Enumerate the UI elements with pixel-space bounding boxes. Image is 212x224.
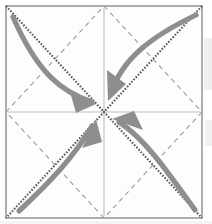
- origami-diagram-canvas: [0, 0, 212, 224]
- scan-artifact-bottom-edge: [0, 221, 212, 224]
- scan-artifact-right-lower: [205, 120, 212, 146]
- scan-artifact-right-upper: [204, 38, 212, 90]
- origami-diagram: [0, 0, 212, 224]
- center-point: [103, 111, 105, 113]
